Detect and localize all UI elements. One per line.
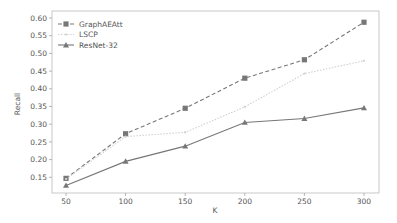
plot-frame xyxy=(52,11,379,193)
legend-label: LSCP xyxy=(79,30,98,39)
legend: GraphAEAttLSCPResNet-32 xyxy=(58,20,123,50)
lscp-marker xyxy=(65,178,67,180)
legend-lscp-marker xyxy=(65,33,67,35)
x-axis-label: K xyxy=(213,206,219,215)
graphaeatt-marker xyxy=(183,106,188,111)
lscp-line xyxy=(66,61,364,179)
lscp-marker xyxy=(363,60,365,62)
x-tick-label: 300 xyxy=(357,197,372,206)
resnet-32-marker xyxy=(361,105,367,110)
lscp-marker xyxy=(303,72,305,74)
x-tick-label: 100 xyxy=(118,197,133,206)
y-tick-label: 0.30 xyxy=(30,120,47,129)
y-tick-label: 0.60 xyxy=(30,14,47,23)
y-tick-label: 0.25 xyxy=(30,138,47,147)
graphaeatt-marker xyxy=(302,57,307,62)
lscp-marker xyxy=(244,106,246,108)
legend-item-graphaeatt: GraphAEAtt xyxy=(58,20,123,29)
legend-item-resnet-32: ResNet-32 xyxy=(58,41,118,50)
legend-graphaeatt-marker xyxy=(63,21,68,26)
lscp-marker xyxy=(184,131,186,133)
x-tick-label: 150 xyxy=(178,197,193,206)
graphaeatt-marker xyxy=(242,76,247,81)
recall-line-chart: 0.150.200.250.300.350.400.450.500.550.60… xyxy=(0,0,397,223)
y-axis: 0.150.200.250.300.350.400.450.500.550.60 xyxy=(30,14,52,182)
legend-label: GraphAEAtt xyxy=(79,20,123,29)
y-tick-label: 0.35 xyxy=(30,102,47,111)
plot-area xyxy=(52,11,379,193)
y-tick-label: 0.20 xyxy=(30,155,47,164)
x-tick-label: 250 xyxy=(297,197,312,206)
series-lscp xyxy=(65,60,365,180)
legend-label: ResNet-32 xyxy=(79,41,118,50)
lscp-marker xyxy=(125,135,127,137)
y-tick-label: 0.15 xyxy=(30,173,47,182)
y-tick-label: 0.50 xyxy=(30,49,47,58)
x-tick-label: 200 xyxy=(238,197,253,206)
y-axis-label: Recall xyxy=(13,93,22,115)
y-tick-label: 0.55 xyxy=(30,31,47,40)
y-tick-label: 0.40 xyxy=(30,84,47,93)
legend-item-lscp: LSCP xyxy=(58,30,98,39)
x-axis: 50100150200250300 xyxy=(61,193,371,206)
x-tick-label: 50 xyxy=(61,197,71,206)
graphaeatt-marker xyxy=(361,20,366,25)
y-tick-label: 0.45 xyxy=(30,67,47,76)
